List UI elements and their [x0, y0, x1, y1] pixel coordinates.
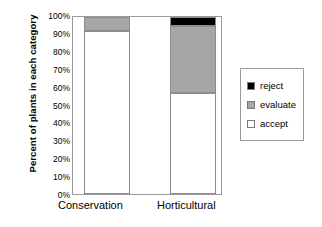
- bar-segment-accept[interactable]: [84, 31, 130, 194]
- y-axis-tick-label: 70%: [53, 65, 70, 74]
- y-axis-tick-label: 80%: [53, 48, 70, 57]
- x-axis-tick-labels: ConservationHorticultural: [40, 199, 280, 219]
- legend-swatch-accept: [247, 120, 255, 128]
- y-axis-tick-label: 40%: [53, 119, 70, 128]
- legend-swatch-reject: [247, 82, 255, 90]
- y-axis-tick-labels: 0%10%20%30%40%50%60%70%80%90%100%: [36, 16, 70, 195]
- y-axis-tick-label: 20%: [53, 155, 70, 164]
- y-axis-tick-label: 100%: [48, 12, 70, 21]
- y-axis-tick-label: 30%: [53, 137, 70, 146]
- y-axis-tick-label: 60%: [53, 83, 70, 92]
- legend-item-evaluate[interactable]: evaluate: [247, 95, 296, 114]
- bar-segment-evaluate[interactable]: [170, 26, 216, 93]
- legend-label: evaluate: [260, 99, 296, 110]
- bar-series-container: [73, 17, 221, 194]
- bar-segment-accept[interactable]: [170, 93, 216, 194]
- legend-item-accept[interactable]: accept: [247, 114, 296, 133]
- x-axis-tick-label: Horticultural: [157, 199, 216, 211]
- plot-area: [72, 16, 222, 195]
- legend-label: accept: [260, 118, 288, 129]
- y-axis-tick-label: 10%: [53, 173, 70, 182]
- legend-swatch-evaluate: [247, 101, 255, 109]
- bar-horticultural[interactable]: [170, 17, 216, 194]
- bar-conservation[interactable]: [84, 17, 130, 194]
- y-axis-tick-label: 0%: [58, 191, 70, 200]
- y-axis-tick-label: 90%: [53, 30, 70, 39]
- legend-item-reject[interactable]: reject: [247, 76, 296, 95]
- legend-label: reject: [260, 80, 283, 91]
- y-axis-tick-label: 50%: [53, 101, 70, 110]
- legend: rejectevaluateaccept: [240, 68, 304, 141]
- bar-segment-evaluate[interactable]: [84, 17, 130, 31]
- chart-figure: Percent of plants in each category 0%10%…: [0, 0, 322, 227]
- x-axis-tick-label: Conservation: [58, 199, 123, 211]
- bar-segment-reject[interactable]: [170, 17, 216, 26]
